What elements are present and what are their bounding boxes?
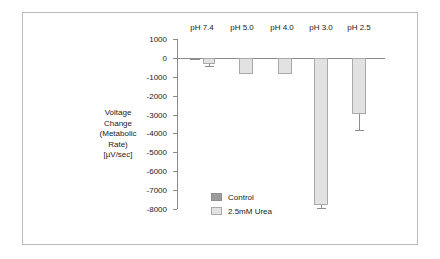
y-axis-label-line-2: Change	[75, 119, 161, 130]
y-tick-label--3000: -3000	[147, 110, 167, 119]
group-label-ph-2-5: pH 2.5	[342, 23, 376, 32]
legend-label-urea: 2.5mM Urea	[228, 207, 272, 216]
y-tick--5000: -5000	[173, 152, 177, 153]
legend-item-urea: 2.5mM Urea	[211, 205, 272, 217]
chart-area: Voltage Change (Metabolic Rate) [µV/sec]…	[23, 13, 419, 246]
y-tick--8000: -8000	[173, 209, 177, 210]
y-tick--1000: -1000	[173, 77, 177, 78]
y-tick--4000: -4000	[173, 133, 177, 134]
legend-item-control: Control	[211, 191, 272, 203]
y-tick-label--2000: -2000	[147, 91, 167, 100]
chart-frame: Voltage Change (Metabolic Rate) [µV/sec]…	[22, 12, 418, 245]
error-cap-urea-ph-7-4	[205, 66, 214, 67]
y-tick--3000: -3000	[173, 115, 177, 116]
y-tick--2000: -2000	[173, 96, 177, 97]
group-label-ph-3-0: pH 3.0	[304, 23, 338, 32]
error-cap-urea-ph-3-0	[317, 208, 326, 209]
chart-legend: Control 2.5mM Urea	[211, 191, 272, 219]
group-label-ph-7-4: pH 7.4	[185, 23, 219, 32]
y-tick--7000: -7000	[173, 190, 177, 191]
bar-urea-ph-5-0	[239, 58, 253, 74]
y-tick-1000: 1000	[173, 39, 177, 40]
bar-urea-ph-2-5	[352, 58, 366, 114]
y-tick-label--6000: -6000	[147, 167, 167, 176]
y-tick-label--7000: -7000	[147, 186, 167, 195]
y-tick-label-1000: 1000	[149, 35, 167, 44]
y-tick-label-0: 0	[163, 53, 167, 62]
legend-swatch-urea-icon	[211, 207, 222, 215]
group-label-ph-5-0: pH 5.0	[225, 23, 259, 32]
error-cap-urea-ph-2-5	[355, 130, 364, 131]
y-tick-label--5000: -5000	[147, 148, 167, 157]
y-tick--6000: -6000	[173, 171, 177, 172]
bar-control-ph-7-4	[190, 58, 200, 60]
error-bar-urea-ph-2-5	[359, 114, 360, 130]
y-tick-label--1000: -1000	[147, 72, 167, 81]
bar-urea-ph-4-0	[278, 58, 292, 74]
legend-label-control: Control	[228, 193, 254, 202]
legend-swatch-control-icon	[211, 193, 222, 201]
y-tick-label--4000: -4000	[147, 129, 167, 138]
group-label-ph-4-0: pH 4.0	[265, 23, 299, 32]
y-tick-label--8000: -8000	[147, 205, 167, 214]
y-axis-line	[177, 39, 178, 209]
bar-urea-ph-3-0	[314, 58, 328, 205]
plot-region: 1000 0 -1000 -2000 -3000 -4000 -5000 -60…	[177, 39, 385, 209]
